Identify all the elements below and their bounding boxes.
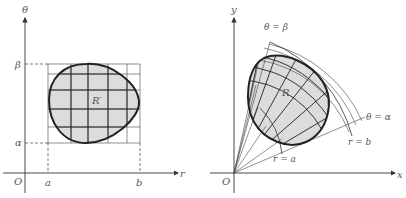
ray-theta-beta-label: θ = β <box>264 22 288 32</box>
right-panel-xy-plane: y x O θ = β θ = α r = a r = b R <box>210 4 403 193</box>
x-axis-label: x <box>397 169 403 180</box>
r-lower-bound-label: a <box>45 177 51 188</box>
ray-theta-alpha-label: θ = α <box>366 112 391 122</box>
origin-label: O <box>14 176 22 187</box>
left-panel-r-theta-plane: θ r O a b α β R′ <box>3 4 186 193</box>
arc-r-a-label: r = a <box>273 154 296 164</box>
theta-lower-bound-label: α <box>15 137 22 148</box>
r-upper-bound-label: b <box>136 177 142 188</box>
theta-upper-bound-label: β <box>14 59 21 70</box>
region-r-prime-label: R′ <box>91 95 103 106</box>
theta-axis-label: θ <box>22 4 28 15</box>
region-r-label: R <box>281 87 290 98</box>
origin-label-xy: O <box>222 176 230 187</box>
polar-change-of-variables-figure: θ r O a b α β R′ <box>0 0 406 198</box>
y-axis-label: y <box>230 4 237 15</box>
r-axis-label: r <box>180 168 186 179</box>
arc-r-b-label: r = b <box>348 137 372 147</box>
